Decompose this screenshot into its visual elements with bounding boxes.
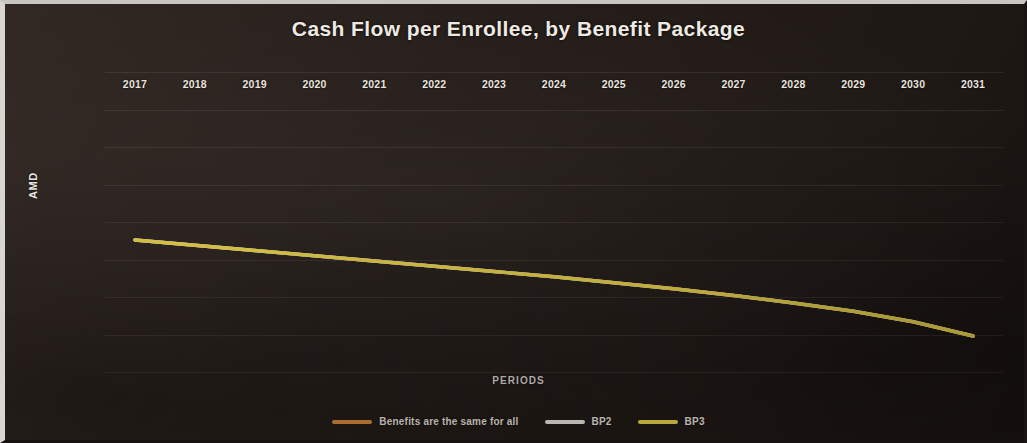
chart-legend: Benefits are the same for allBP2BP3	[5, 416, 1027, 427]
x-axis-tick-2020: 2020	[285, 78, 345, 94]
gridline	[105, 110, 1003, 111]
legend-label: BP3	[685, 416, 705, 427]
chart-image-frame: Cash Flow per Enrollee, by Benefit Packa…	[0, 0, 1027, 443]
x-axis-title: PERIODS	[5, 375, 1027, 386]
gridline	[105, 335, 1003, 336]
legend-swatch-icon	[545, 420, 585, 424]
x-axis-tick-2025: 2025	[584, 78, 644, 94]
legend-label: Benefits are the same for all	[379, 416, 518, 427]
legend-label: BP2	[592, 416, 612, 427]
legend-swatch-icon	[332, 420, 372, 424]
x-axis-tick-2027: 2027	[704, 78, 764, 94]
gridline	[105, 147, 1003, 148]
gridline	[105, 222, 1003, 223]
x-axis-tick-2017: 2017	[105, 78, 165, 94]
x-axis-tick-2024: 2024	[524, 78, 584, 94]
x-axis-tick-labels: 2017201820192020202120222023202420252026…	[105, 78, 1003, 94]
legend-item-0[interactable]: Benefits are the same for all	[332, 416, 518, 427]
x-axis-tick-2028: 2028	[763, 78, 823, 94]
legend-item-2[interactable]: BP3	[638, 416, 705, 427]
plot-area: 0(5,000)(10,000)(15,000)(20,000)(25,000)…	[105, 72, 1003, 372]
gridline	[105, 185, 1003, 186]
x-axis-tick-2019: 2019	[225, 78, 285, 94]
series-line-1	[135, 240, 973, 336]
gridline	[105, 260, 1003, 261]
legend-item-1[interactable]: BP2	[545, 416, 612, 427]
x-axis-tick-2021: 2021	[344, 78, 404, 94]
gridline	[105, 72, 1003, 73]
x-axis-tick-2022: 2022	[404, 78, 464, 94]
x-axis-tick-2026: 2026	[644, 78, 704, 94]
gridline	[105, 297, 1003, 298]
x-axis-tick-2029: 2029	[823, 78, 883, 94]
legend-swatch-icon	[638, 420, 678, 424]
x-axis-tick-2023: 2023	[464, 78, 524, 94]
chart-title: Cash Flow per Enrollee, by Benefit Packa…	[5, 17, 1027, 41]
x-axis-tick-2030: 2030	[883, 78, 943, 94]
y-axis-title: AMD	[27, 172, 39, 199]
x-axis-tick-2018: 2018	[165, 78, 225, 94]
gridline	[105, 372, 1003, 373]
series-line-0	[135, 240, 973, 336]
series-line-2	[135, 240, 973, 336]
x-axis-tick-2031: 2031	[943, 78, 1003, 94]
